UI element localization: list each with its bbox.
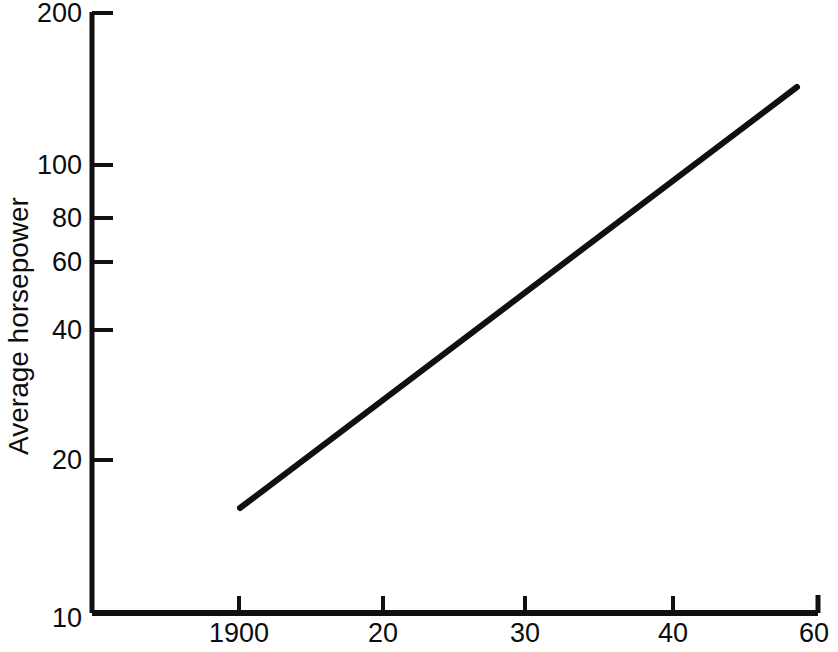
- y-axis-ticks: [92, 13, 113, 460]
- y-axis-title-container: Average horsepower: [2, 0, 36, 652]
- x-tick-label-60: 60: [799, 620, 829, 647]
- chart-plot-area: [0, 0, 838, 652]
- x-tick-label-1900: 1900: [209, 620, 269, 647]
- chart-figure: 200 100 80 60 40 20 10 1900 20 30 40 60 …: [0, 0, 838, 652]
- y-axis-title: Average horsepower: [2, 0, 36, 652]
- x-tick-label-20: 20: [368, 620, 398, 647]
- x-tick-label-30: 30: [510, 620, 540, 647]
- x-tick-label-40: 40: [658, 620, 688, 647]
- data-line-average-horsepower: [240, 87, 797, 508]
